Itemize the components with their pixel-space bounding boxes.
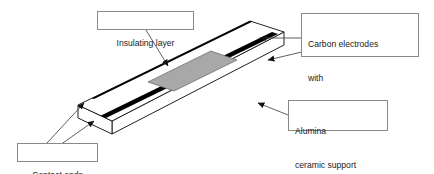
callout-carbon-electrodes: Carbon electrodes with OPH/Nafion layer	[301, 13, 419, 57]
leader-line-contact-lower	[60, 121, 94, 145]
callout-carbon-line-1: Carbon electrodes	[308, 39, 412, 50]
callout-carbon-line-2: with	[308, 73, 412, 84]
figure-canvas: Insulating layer Carbon electrodes with …	[0, 0, 434, 174]
callout-insulating-line-1: Insulating layer	[104, 38, 187, 49]
leader-line-alumina	[258, 103, 288, 115]
callout-contact-line-1: Contact ends	[24, 170, 91, 174]
callout-alumina-support: Alumina ceramic support	[288, 100, 388, 131]
leader-line-contact-upper	[47, 103, 84, 143]
callout-alumina-line-1: Alumina	[295, 126, 381, 137]
callout-alumina-line-2: ceramic support	[295, 160, 381, 171]
callout-contact-ends: Contact ends	[17, 143, 98, 162]
callout-insulating-layer: Insulating layer	[97, 11, 194, 30]
